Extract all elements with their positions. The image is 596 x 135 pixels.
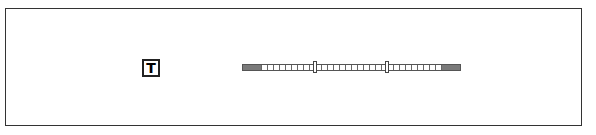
slider-right-cap xyxy=(442,65,460,70)
slider-cells xyxy=(261,65,442,70)
text-tool-icon[interactable]: T xyxy=(142,59,160,77)
text-tool-glyph: T xyxy=(146,61,156,75)
slider-handle-low[interactable] xyxy=(313,61,317,73)
slider-handle-high[interactable] xyxy=(385,61,389,73)
slider-left-cap xyxy=(243,65,261,70)
range-slider-track[interactable] xyxy=(242,64,461,71)
